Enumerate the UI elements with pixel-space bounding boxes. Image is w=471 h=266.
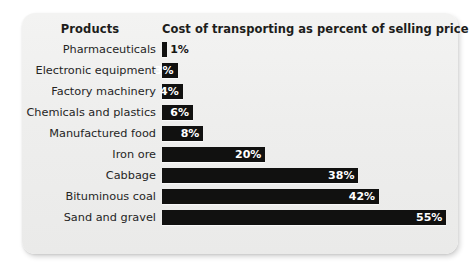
bar-track: 1% — [162, 42, 454, 57]
bar-track: 3% — [162, 63, 454, 78]
bar-row: Bituminous coal42% — [22, 188, 458, 209]
bar-category-label: Chemicals and plastics — [22, 106, 156, 120]
bar-fill: 20% — [162, 147, 265, 162]
bar-track: 6% — [162, 105, 454, 120]
bar-fill: 42% — [162, 189, 379, 204]
bar-fill: 3% — [162, 63, 178, 78]
bar-category-label: Pharmaceuticals — [22, 43, 156, 57]
bar-track: 38% — [162, 168, 454, 183]
bar-category-label: Iron ore — [22, 148, 156, 162]
bar-row: Iron ore20% — [22, 146, 458, 167]
bar-track: 42% — [162, 189, 454, 204]
bar-row: Sand and gravel55% — [22, 209, 458, 230]
bar-row: Pharmaceuticals1% — [22, 41, 458, 62]
bar-value-label: 20% — [235, 147, 261, 162]
bar-value-label: 38% — [328, 168, 354, 183]
bar-category-label: Electronic equipment — [22, 64, 156, 78]
bar-value-label: 3% — [155, 63, 174, 78]
chart-card: Products Cost of transporting as percent… — [22, 13, 458, 254]
bar-chart-rows: Pharmaceuticals1%Electronic equipment3%F… — [22, 41, 458, 230]
bar-value-label: 8% — [181, 126, 200, 141]
bar-fill: 55% — [162, 210, 446, 225]
bar-fill: 6% — [162, 105, 193, 120]
bar-track: 20% — [162, 147, 454, 162]
chart-card-inner: Products Cost of transporting as percent… — [22, 13, 458, 254]
bar-value-label: 6% — [170, 105, 189, 120]
bar-row: Chemicals and plastics6% — [22, 104, 458, 125]
chart-header: Products Cost of transporting as percent… — [22, 22, 458, 40]
bar-fill: 8% — [162, 126, 203, 141]
bar-row: Electronic equipment3% — [22, 62, 458, 83]
bar-value-label: 55% — [416, 210, 442, 225]
bar-track: 55% — [162, 210, 454, 225]
bar-category-label: Cabbage — [22, 169, 156, 183]
bar-value-label: 1% — [170, 42, 189, 57]
bar-track: 8% — [162, 126, 454, 141]
bar-fill — [162, 42, 167, 57]
bar-fill: 4% — [162, 84, 183, 99]
bar-track: 4% — [162, 84, 454, 99]
bar-category-label: Factory machinery — [22, 85, 156, 99]
bar-category-label: Manufactured food — [22, 127, 156, 141]
bar-category-label: Sand and gravel — [22, 211, 156, 225]
bar-row: Factory machinery4% — [22, 83, 458, 104]
bar-category-label: Bituminous coal — [22, 190, 156, 204]
column-header-cost: Cost of transporting as percent of selli… — [162, 22, 469, 36]
bar-fill: 38% — [162, 168, 358, 183]
bar-value-label: 42% — [349, 189, 375, 204]
bar-row: Manufactured food8% — [22, 125, 458, 146]
column-header-products: Products — [22, 22, 158, 36]
bar-row: Cabbage38% — [22, 167, 458, 188]
bar-value-label: 4% — [160, 84, 179, 99]
